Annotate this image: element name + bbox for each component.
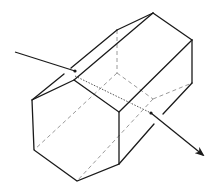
hidden-edge — [34, 73, 117, 150]
prism-edge — [74, 13, 153, 80]
hexagonal-prism-diagram — [0, 0, 215, 188]
prism-edge — [119, 40, 192, 112]
hidden-edge — [117, 73, 153, 99]
prism-edge — [163, 83, 192, 114]
front-face — [32, 80, 119, 181]
hidden-edge — [153, 83, 192, 99]
prism-edge — [153, 13, 192, 40]
hidden-edge — [77, 99, 153, 181]
incident-ray-arrow — [15, 52, 75, 71]
front-face-outline — [32, 80, 119, 181]
hidden-edges — [34, 30, 192, 181]
exit-ray-arrow — [151, 113, 203, 155]
